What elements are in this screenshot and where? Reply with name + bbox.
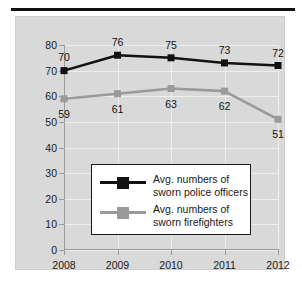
x-tick-label: 2012 [266,259,289,271]
point-label-1-4: 51 [272,128,284,140]
point-label-0-3: 73 [219,44,231,56]
legend-swatch-police-icon [100,175,146,188]
legend-marker-firefighters [117,207,129,219]
y-tick-label: 0 [51,244,57,256]
series-marker-1-1 [114,90,121,97]
x-tick-mark [118,250,119,255]
x-tick-mark [171,250,172,255]
legend-label-firefighters-line2: sworn firefighters [153,216,233,228]
chart-legend: Avg. numbers of sworn police officers Av… [91,164,251,235]
legend-marker-police [117,177,129,189]
series-marker-1-3 [221,88,228,95]
y-tick-label: 40 [45,142,57,154]
point-label-0-2: 75 [165,39,177,51]
legend-item-police: Avg. numbers of sworn police officers [100,173,248,199]
series-marker-1-0 [61,95,68,102]
legend-label-police-line2: sworn police officers [153,186,248,198]
point-label-1-2: 63 [165,98,177,110]
x-tick-mark [64,250,65,255]
x-tick-label: 2009 [106,259,129,271]
y-tick-label: 80 [45,39,57,51]
point-label-1-1: 61 [112,103,124,115]
legend-item-firefighters: Avg. numbers of sworn firefighters [100,203,233,229]
chart-figure: 01020304050607080 20082009201020112012 7… [0,0,302,281]
x-tick-label: 2008 [52,259,75,271]
series-marker-0-4 [275,62,282,69]
legend-swatch-firefighters-icon [100,205,146,218]
y-tick-label: 60 [45,90,57,102]
y-tick-label: 30 [45,167,57,179]
top-rule-divider [11,8,295,11]
series-marker-1-2 [168,85,175,92]
y-tick-label: 70 [45,65,57,77]
x-tick-label: 2011 [213,259,236,271]
chart-panel: 01020304050607080 20082009201020112012 7… [15,16,285,270]
legend-label-firefighters: Avg. numbers of sworn firefighters [153,203,233,229]
point-label-0-1: 76 [112,36,124,48]
x-tick-mark [225,250,226,255]
series-marker-0-3 [221,59,228,66]
series-marker-1-4 [275,116,282,123]
y-tick-label: 50 [45,116,57,128]
series-marker-0-2 [168,54,175,61]
series-marker-0-0 [61,67,68,74]
point-label-0-4: 72 [272,47,284,59]
x-tick-label: 2010 [159,259,182,271]
x-tick-mark [278,250,279,255]
legend-label-police: Avg. numbers of sworn police officers [153,173,248,199]
point-label-1-0: 59 [58,108,70,120]
series-marker-0-1 [114,52,121,59]
point-label-1-3: 62 [219,100,231,112]
y-tick-label: 10 [45,218,57,230]
legend-label-firefighters-line1: Avg. numbers of [153,203,229,215]
legend-label-police-line1: Avg. numbers of [153,173,229,185]
y-tick-label: 20 [45,193,57,205]
point-label-0-0: 70 [58,51,70,63]
